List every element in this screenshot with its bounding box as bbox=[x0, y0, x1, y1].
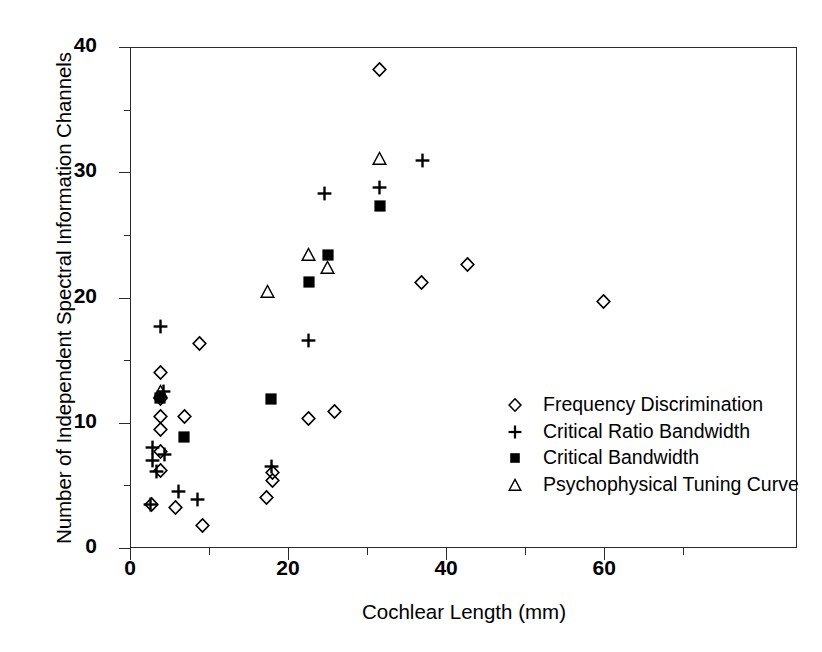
data-point-open-triangle bbox=[153, 384, 168, 399]
data-point-open-diamond bbox=[460, 257, 475, 272]
data-point-open-triangle bbox=[372, 151, 387, 166]
y-axis-tick bbox=[119, 423, 131, 424]
data-point-open-diamond bbox=[301, 411, 316, 426]
y-axis-minor-tick bbox=[124, 235, 131, 236]
data-point-open-diamond bbox=[153, 365, 168, 380]
data-point-open-diamond bbox=[195, 518, 210, 533]
data-point-open-diamond bbox=[192, 336, 207, 351]
data-point-open-triangle bbox=[320, 260, 335, 275]
x-axis-title: Cochlear Length (mm) bbox=[130, 600, 798, 624]
x-axis-minor-tick bbox=[367, 548, 368, 555]
data-point-open-diamond bbox=[259, 490, 274, 505]
y-axis-tick bbox=[119, 172, 131, 173]
data-point-open-triangle bbox=[260, 284, 275, 299]
data-point-open-diamond bbox=[327, 404, 342, 419]
data-point-open-diamond bbox=[596, 294, 611, 309]
y-axis-tick bbox=[119, 47, 131, 48]
y-axis-minor-tick bbox=[124, 360, 131, 361]
data-point-plus bbox=[415, 153, 430, 168]
x-axis-minor-tick bbox=[525, 548, 526, 555]
data-point-plus bbox=[171, 484, 186, 499]
y-axis-minor-tick bbox=[124, 110, 131, 111]
legend-item-label: Psychophysical Tuning Curve bbox=[543, 473, 799, 496]
x-axis-minor-tick bbox=[209, 548, 210, 555]
scatter-plot-figure: Number of Independent Spectral Informati… bbox=[0, 0, 822, 652]
data-point-plus bbox=[153, 319, 168, 334]
y-axis-tick-label-text: 20 bbox=[74, 284, 97, 308]
x-axis-minor-tick bbox=[683, 548, 684, 555]
data-point-plus bbox=[143, 497, 158, 512]
legend-marker-filled-square-icon bbox=[505, 445, 529, 469]
y-axis-tick-label-text: 30 bbox=[74, 158, 97, 182]
data-point-filled-square bbox=[177, 430, 191, 444]
data-point-plus bbox=[149, 464, 164, 479]
data-point-open-triangle bbox=[301, 247, 316, 262]
legend-marker-open-diamond-icon bbox=[505, 392, 529, 416]
legend-item-label: Frequency Discrimination bbox=[543, 393, 763, 416]
x-axis-tick-label-text: 60 bbox=[592, 556, 615, 580]
y-axis-tick bbox=[119, 298, 131, 299]
legend-marker-plus-icon bbox=[505, 419, 529, 443]
data-point-open-diamond bbox=[414, 275, 429, 290]
data-point-open-diamond bbox=[177, 409, 192, 424]
data-point-plus bbox=[372, 180, 387, 195]
x-axis-tick-label-text: 40 bbox=[434, 556, 457, 580]
y-axis-minor-tick bbox=[124, 485, 131, 486]
data-point-plus bbox=[317, 186, 332, 201]
data-point-plus bbox=[301, 333, 316, 348]
x-axis-tick-label-text: 20 bbox=[276, 556, 299, 580]
y-axis-tick-label-text: 0 bbox=[85, 534, 97, 558]
legend-item-label: Critical Bandwidth bbox=[543, 446, 699, 469]
data-point-open-diamond bbox=[153, 422, 168, 437]
data-point-plus bbox=[264, 459, 279, 474]
data-point-plus bbox=[190, 492, 205, 507]
data-point-filled-square bbox=[264, 392, 278, 406]
data-point-filled-square bbox=[302, 275, 316, 289]
data-point-filled-square bbox=[373, 199, 387, 213]
y-axis-title: Number of Independent Spectral Informati… bbox=[52, 18, 76, 578]
legend-item-label: Critical Ratio Bandwidth bbox=[543, 420, 750, 443]
data-point-open-diamond bbox=[168, 500, 183, 515]
x-axis-tick-label-text: 0 bbox=[124, 556, 136, 580]
y-axis-tick-label-text: 40 bbox=[74, 33, 97, 57]
data-point-open-diamond bbox=[372, 62, 387, 77]
data-point-plus bbox=[157, 447, 172, 462]
legend-marker-open-triangle-icon bbox=[505, 472, 529, 496]
y-axis-tick-label-text: 10 bbox=[74, 409, 97, 433]
